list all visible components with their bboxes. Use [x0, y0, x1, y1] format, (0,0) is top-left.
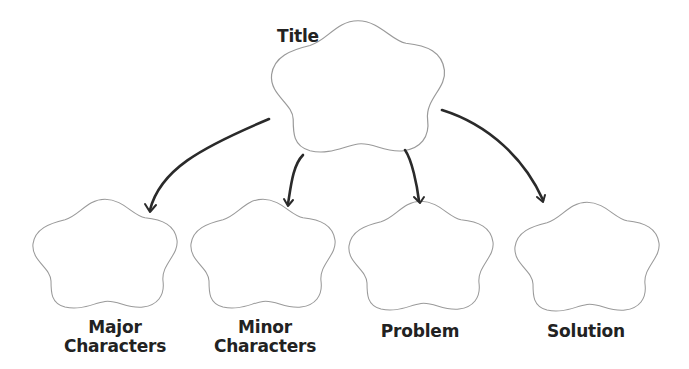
problem-label-text: Problem: [370, 322, 470, 341]
arrow-to-minor-characters: [284, 155, 303, 206]
arrow-to-major-characters: [145, 119, 269, 212]
major-characters-label: Major Characters: [60, 318, 170, 356]
major-characters-label-line2: Characters: [60, 337, 170, 356]
solution-label-text: Solution: [536, 322, 636, 341]
problem-shape: [349, 201, 493, 310]
minor-characters-shape: [191, 199, 335, 308]
major-characters-shape: [33, 199, 177, 308]
solution-label: Solution: [536, 322, 636, 341]
minor-characters-label: Minor Characters: [210, 318, 320, 356]
title-label-text: Title: [277, 26, 319, 46]
arrow-to-problem: [405, 150, 424, 203]
arrow-to-solution: [442, 110, 545, 202]
title-label: Title: [270, 27, 326, 46]
solution-shape: [515, 202, 659, 311]
major-characters-label-line1: Major: [60, 318, 170, 337]
diagram-canvas: [0, 0, 689, 369]
problem-label: Problem: [370, 322, 470, 341]
minor-characters-label-line1: Minor: [210, 318, 320, 337]
minor-characters-label-line2: Characters: [210, 337, 320, 356]
